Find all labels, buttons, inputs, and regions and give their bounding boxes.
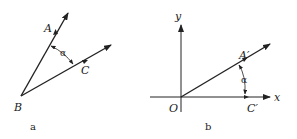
label-y: y [174,10,182,23]
vector-oa-prime [181,44,270,97]
figure-b: y x O A′ C′ α b [150,10,281,132]
caption-b: b [205,121,211,132]
label-c: C [81,64,90,77]
label-x: x [274,91,281,104]
angle-alpha-a: α [60,48,66,58]
figure-a: A B C α a [13,13,111,132]
label-a-prime: A′ [238,49,250,62]
label-origin: O [169,102,178,115]
point-c-prime-arrow-icon [244,95,249,99]
label-a: A [43,22,52,35]
label-b: B [13,101,22,114]
figure-canvas: A B C α a y x O A′ C′ α b [0,0,297,139]
label-c-prime: C′ [247,102,258,115]
caption-a: a [30,121,36,132]
angle-alpha-b: α [241,75,247,85]
